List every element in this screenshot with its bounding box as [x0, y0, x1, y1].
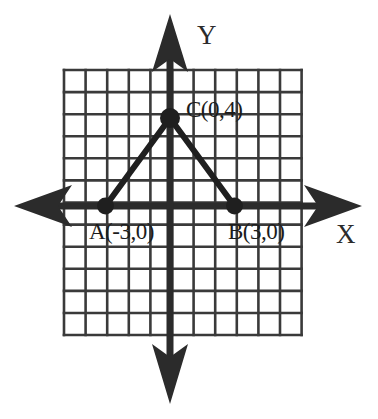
vertex-point-c — [160, 108, 180, 128]
vertex-point-a — [97, 198, 114, 215]
point-label-c: C(0,4) — [186, 97, 242, 123]
coordinate-plane-svg — [0, 0, 378, 419]
y-axis-label: Y — [197, 20, 217, 51]
point-label-a: A(-3,0) — [89, 219, 154, 245]
point-label-b: B(3,0) — [228, 219, 284, 245]
x-axis-label: X — [336, 219, 356, 250]
vertex-point-b — [226, 198, 243, 215]
coordinate-grid-figure: Y X C(0,4) A(-3,0) B(3,0) — [0, 0, 378, 419]
